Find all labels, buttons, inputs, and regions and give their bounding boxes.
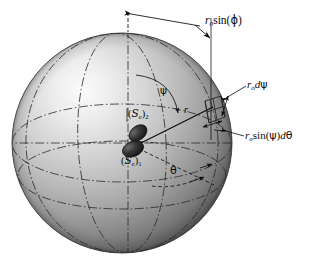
label-source-e-2: (Se)2 [128, 108, 149, 120]
se2-index: 2 [145, 113, 148, 120]
label-theta-angle: θ [170, 165, 177, 176]
dimension-arrow-left [131, 14, 200, 26]
rspdt-sin: sin( [253, 129, 270, 141]
se2-s: S [132, 107, 139, 119]
label-source-e-1: (Se)1 [121, 155, 142, 167]
label-ro-d-psi: rodψ [247, 79, 268, 90]
label-radius-r: r [184, 105, 188, 116]
psi-glyph-rspdt: ψ [269, 129, 276, 142]
label-psi-angle: ψ [160, 85, 167, 97]
label-ro-sin-phi: rosin(ϕ) [205, 15, 242, 27]
leader-rodpsi [226, 86, 246, 98]
psi-glyph-dpsi: ψ [260, 78, 267, 91]
dimension-arrow-right [195, 25, 210, 38]
psi-angle-glyph: ψ [160, 84, 167, 96]
theta-glyph-rspdt: θ [286, 129, 293, 142]
theta-angle-glyph: θ [170, 164, 177, 177]
spherical-coordinate-figure: rosin(ϕ) rodψ rosin(ψ)dθ ψ r θ (Se)2 (Se… [0, 0, 317, 267]
label-ro-sin-psi-d-theta: rosin(ψ)dθ [245, 130, 292, 141]
phi-glyph: ϕ [230, 13, 238, 27]
se1-s: S [125, 154, 132, 166]
ro-sin-phi-sin: sin( [213, 14, 230, 26]
se1-index: 1 [138, 160, 141, 167]
radius-r-glyph: r [184, 104, 188, 115]
ro-sin-phi-close: ) [238, 14, 242, 26]
